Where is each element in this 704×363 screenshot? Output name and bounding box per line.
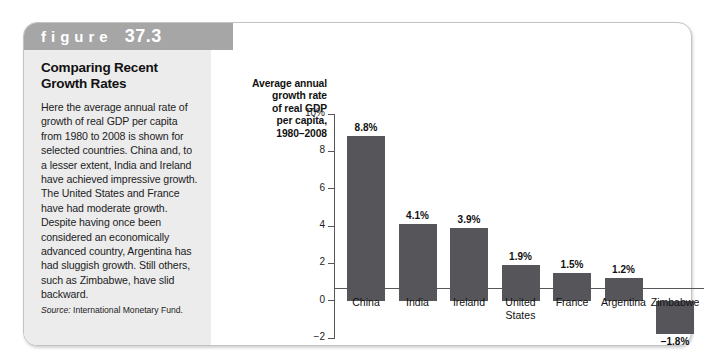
bar-value-label: 3.9% [434, 214, 504, 225]
source-text: International Monetary Fund. [73, 305, 183, 315]
bar-value-label: 1.2% [589, 264, 659, 275]
figure-number: 37.3 [125, 26, 162, 47]
y-tick-label: −2 [283, 331, 325, 342]
x-category-label: Zimbabwe [635, 296, 704, 309]
y-tick-mark [328, 263, 335, 264]
y-tick-mark [328, 226, 335, 227]
bar [347, 136, 385, 300]
figure-number-header: figure 37.3 [24, 23, 233, 50]
y-tick-label: 0 [283, 294, 325, 305]
y-tick-label: 10% [283, 107, 325, 118]
x-category-label-line: States [481, 309, 561, 322]
y-tick-mark [328, 188, 335, 189]
y-tick-label: 8 [283, 144, 325, 155]
x-category-label-line: Zimbabwe [635, 296, 704, 309]
y-tick-mark [328, 114, 335, 115]
chart-area: Average annual growth rate of real GDP p… [211, 50, 691, 345]
bar-value-label: −1.8% [640, 336, 704, 347]
caption-body: Here the average annual rate of growth o… [41, 100, 199, 302]
caption-panel: Comparing Recent Growth Rates Here the a… [24, 50, 211, 345]
y-tick-mark [328, 338, 335, 339]
bar-chart-plot: 10%86420−2 8.8%4.1%3.9%1.9%1.5%1.2%−1.8%… [211, 50, 704, 345]
caption-source: Source: International Monetary Fund. [41, 305, 199, 316]
source-label: Source: [41, 305, 71, 315]
figure-card: figure 37.3 Comparing Recent Growth Rate… [23, 22, 692, 346]
y-tick-label: 4 [283, 219, 325, 230]
bar [450, 228, 488, 301]
caption-title: Comparing Recent Growth Rates [41, 60, 199, 92]
bar [399, 224, 437, 301]
y-tick-label: 2 [283, 256, 325, 267]
bar-value-label: 8.8% [331, 122, 401, 133]
y-tick-mark [328, 151, 335, 152]
y-axis-tick-group: 10%86420−2 [279, 114, 325, 338]
figure-label: figure [41, 28, 113, 45]
y-tick-label: 6 [283, 182, 325, 193]
